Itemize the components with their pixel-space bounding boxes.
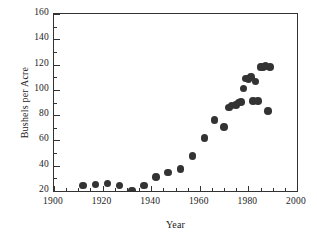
data-point: [240, 85, 248, 93]
y-axis-tick-label: 20: [39, 185, 49, 195]
data-point: [104, 180, 112, 188]
x-axis-tick-minor: [224, 188, 225, 191]
x-axis-tick-minor: [78, 188, 79, 191]
x-axis-tick-minor: [273, 188, 274, 191]
y-axis-tick-major: [54, 90, 60, 91]
y-axis-tick-major: [54, 14, 60, 15]
y-axis-tick-label: 120: [34, 59, 49, 69]
data-point: [211, 116, 219, 124]
plot-area: [54, 14, 297, 191]
x-axis-tick-minor: [90, 188, 91, 191]
data-point: [189, 152, 197, 160]
y-axis-tick-major: [54, 65, 60, 66]
data-point: [164, 169, 172, 177]
data-point: [264, 107, 272, 115]
data-point: [177, 165, 185, 173]
x-axis-tick-major: [54, 186, 55, 192]
data-point: [237, 98, 245, 106]
y-axis-tick-major: [54, 166, 60, 167]
x-axis-tick-label: 1920: [92, 196, 112, 206]
y-axis-tick-label: 60: [39, 135, 49, 145]
x-axis-tick-label: 1980: [237, 196, 257, 206]
x-axis-tick-minor: [66, 188, 67, 191]
plot-frame: [53, 13, 298, 192]
data-point: [79, 182, 87, 190]
x-axis-tick-major: [103, 186, 104, 192]
x-axis-tick-minor: [212, 188, 213, 191]
y-axis-tick-minor: [54, 178, 57, 179]
x-axis-tick-minor: [261, 188, 262, 191]
data-point: [140, 182, 148, 190]
y-axis-tick-minor: [54, 77, 57, 78]
x-axis-tick-minor: [115, 188, 116, 191]
x-axis-tick-minor: [188, 188, 189, 191]
y-axis-tick-major: [54, 39, 60, 40]
x-axis-tick-labels: 190019201940196019802000: [53, 196, 298, 209]
x-axis-tick-major: [200, 186, 201, 192]
data-point: [128, 187, 136, 191]
data-point: [152, 173, 160, 181]
x-axis-tick-label: 1900: [43, 196, 63, 206]
y-axis-tick-minor: [54, 128, 57, 129]
x-axis-tick-label: 1940: [140, 196, 160, 206]
y-axis-tick-label: 80: [39, 109, 49, 119]
x-axis-tick-label: 2000: [286, 196, 306, 206]
y-axis-tick-label: 40: [39, 160, 49, 170]
x-axis-tick-minor: [139, 188, 140, 191]
scatter-chart-figure: 20406080100120140160 1900192019401960198…: [0, 0, 317, 245]
x-axis-tick-label: 1960: [189, 196, 209, 206]
x-axis-tick-major: [248, 186, 249, 192]
data-point: [254, 97, 262, 105]
y-axis-tick-major: [54, 140, 60, 141]
y-axis-title: Bushels per Acre: [14, 13, 34, 192]
x-axis-tick-minor: [285, 188, 286, 191]
y-axis-tick-minor: [54, 52, 57, 53]
x-axis-tick-minor: [176, 188, 177, 191]
y-axis-tick-minor: [54, 103, 57, 104]
x-axis-tick-minor: [236, 188, 237, 191]
x-axis-tick-major: [151, 186, 152, 192]
data-point: [92, 181, 100, 189]
data-point: [116, 182, 124, 190]
data-point: [266, 63, 274, 71]
y-axis-tick-minor: [54, 27, 57, 28]
data-point: [201, 134, 209, 142]
y-axis-tick-minor: [54, 153, 57, 154]
x-axis-title: Year: [53, 219, 298, 230]
y-axis-tick-label: 160: [34, 8, 49, 18]
data-point: [252, 78, 260, 86]
x-axis-tick-minor: [163, 188, 164, 191]
data-point: [220, 123, 228, 131]
y-axis-tick-label: 140: [34, 34, 49, 44]
y-axis-tick-major: [54, 115, 60, 116]
y-axis-tick-label: 100: [34, 84, 49, 94]
